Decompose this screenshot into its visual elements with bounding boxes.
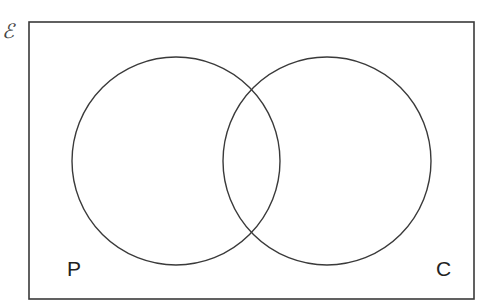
universal-set-frame bbox=[29, 22, 474, 299]
set-p-circle bbox=[72, 57, 280, 265]
set-c-label: C bbox=[436, 257, 451, 280]
set-c-circle bbox=[223, 57, 431, 265]
set-p-label: P bbox=[67, 257, 81, 280]
venn-diagram: ℰ P C bbox=[0, 0, 482, 307]
universal-set-label: ℰ bbox=[2, 19, 16, 43]
